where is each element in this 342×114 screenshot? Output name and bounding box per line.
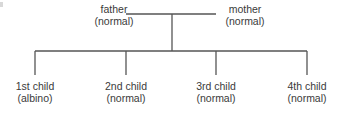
child3-phenotype: (normal) [176, 92, 256, 104]
child2-label: 2nd child [86, 80, 166, 92]
child2-phenotype: (normal) [86, 92, 166, 104]
child1-phenotype: (albino) [0, 92, 75, 104]
child4-node: 4th child (normal) [267, 80, 342, 104]
mother-node: mother (normal) [205, 3, 285, 27]
child4-phenotype: (normal) [267, 92, 342, 104]
child3-label: 3rd child [176, 80, 256, 92]
child1-label: 1st child [0, 80, 75, 92]
pedigree-diagram: father (normal) mother (normal) 1st chil… [0, 0, 342, 114]
child3-node: 3rd child (normal) [176, 80, 256, 104]
father-label: father [74, 3, 154, 15]
mother-phenotype: (normal) [205, 15, 285, 27]
father-node: father (normal) [74, 3, 154, 27]
child2-node: 2nd child (normal) [86, 80, 166, 104]
child1-node: 1st child (albino) [0, 80, 75, 104]
child4-label: 4th child [267, 80, 342, 92]
father-phenotype: (normal) [74, 15, 154, 27]
mother-label: mother [205, 3, 285, 15]
